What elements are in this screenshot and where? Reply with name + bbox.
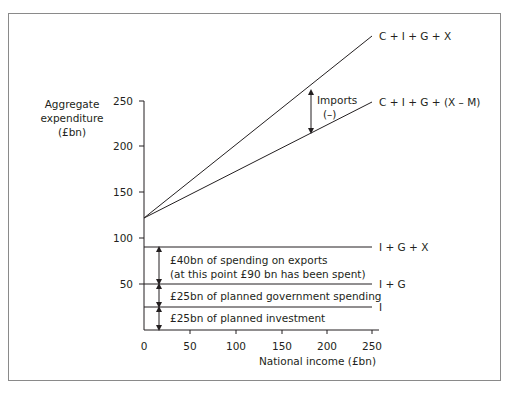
svg-text:(£bn): (£bn) [58, 126, 86, 138]
svg-text:Aggregate: Aggregate [45, 98, 100, 110]
y-axis-label: Aggregate expenditure (£bn) [40, 98, 103, 138]
line-c-i-g-x [144, 36, 372, 218]
label-c-i-g-x: C + I + G + X [379, 30, 451, 42]
investment-annotation: £25bn of planned investment [170, 312, 325, 324]
svg-text:100: 100 [113, 232, 133, 244]
aggregate-lines [144, 36, 372, 218]
svg-text:100: 100 [226, 340, 246, 352]
svg-text:250: 250 [362, 340, 382, 352]
svg-text:50: 50 [183, 340, 196, 352]
x-tick-labels: 0 50 100 150 200 250 [141, 340, 382, 352]
imports-label: Imports [317, 94, 357, 106]
svg-text:200: 200 [113, 140, 133, 152]
y-tick-labels: 250 200 150 100 50 [113, 95, 133, 290]
label-c-i-g-x-m: C + I + G + (X – M) [379, 96, 480, 108]
exports-annotation-line2: (at this point £90 bn has been spent) [170, 268, 366, 280]
imports-sign: (–) [323, 108, 336, 120]
svg-text:150: 150 [113, 186, 133, 198]
svg-text:expenditure: expenditure [40, 112, 103, 124]
label-i-g-x: I + G + X [379, 241, 428, 253]
government-annotation: £25bn of planned government spending [170, 290, 381, 302]
x-axis-label: National income (£bn) [259, 355, 376, 367]
label-i: I [379, 301, 382, 313]
exports-annotation-line1: £40bn of spending on exports [170, 254, 328, 266]
svg-text:50: 50 [120, 278, 133, 290]
svg-text:0: 0 [141, 340, 148, 352]
svg-text:200: 200 [317, 340, 337, 352]
svg-text:150: 150 [272, 340, 292, 352]
svg-text:250: 250 [113, 95, 133, 107]
label-i-g: I + G [379, 278, 406, 290]
line-c-i-g-x-m [144, 102, 372, 218]
chart-svg: Aggregate expenditure (£bn) 250 200 150 … [0, 0, 512, 395]
